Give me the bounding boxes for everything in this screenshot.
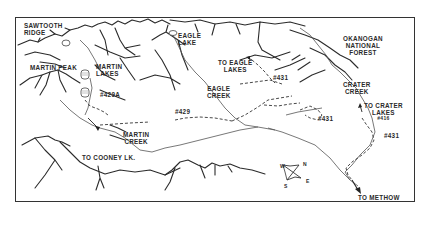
label-eagle-lake: EAGLE LAKE (178, 32, 201, 46)
label-martin-lakes-line1: MARTIN (96, 63, 122, 70)
compass-n: N (303, 161, 307, 168)
label-okanogan-line3: FOREST (343, 49, 383, 56)
creek-martin (60, 100, 275, 152)
label-okanogan-line1: OKANOGAN (343, 35, 383, 42)
label-trail-429a: #429A (100, 91, 120, 98)
label-to-eagle-lakes-line2: LAKES (218, 66, 252, 73)
label-martin-peak: MARTIN PEAK (30, 64, 77, 71)
label-to-methow: TO METHOW (358, 194, 400, 201)
trail-429-path (100, 117, 232, 125)
label-martin-creek: MARTIN CREEK (123, 131, 149, 145)
label-sawtooth-line2: RIDGE (24, 29, 63, 36)
label-trail-431-right: #431 (384, 132, 399, 139)
lake-martin-lower (81, 88, 89, 97)
label-martin-creek-line2: CREEK (123, 138, 149, 145)
label-to-eagle-lakes: TO EAGLE LAKES (218, 59, 252, 73)
arrows (88, 56, 362, 194)
label-sawtooth-line1: SAWTOOTH (24, 22, 63, 29)
label-crater-creek-line1: CRATER (343, 81, 371, 88)
lake-martin-upper (81, 70, 89, 79)
label-okanogan-line2: NATIONAL (343, 42, 383, 49)
label-crater-creek-line2: CREEK (343, 88, 371, 95)
label-eagle-creek-line2: CREEK (207, 92, 231, 99)
lake-eagle (169, 31, 177, 36)
creek-main (268, 128, 350, 180)
label-to-cooney-lake: TO COONEY LK. (82, 154, 135, 161)
compass-s: S (284, 183, 288, 190)
label-martin-creek-line1: MARTIN (123, 131, 149, 138)
label-to-crater-lakes-line1: TO CRATER (364, 102, 403, 109)
compass-rose (283, 165, 301, 180)
label-eagle-creek: EAGLE CREEK (207, 85, 231, 99)
label-trail-431-top: #431 (273, 74, 288, 81)
label-martin-lakes-line2: LAKES (96, 70, 122, 77)
compass-w: W (280, 163, 285, 170)
label-eagle-lake-line2: LAKE (178, 39, 201, 46)
compass-e: E (306, 178, 310, 185)
trail-431-right (346, 118, 374, 180)
label-okanogan-national-forest: OKANOGAN NATIONAL FOREST (343, 35, 383, 56)
label-crater-creek: CRATER CREEK (343, 81, 371, 95)
label-to-crater-lakes: TO CRATER LAKES #416 (364, 102, 403, 121)
label-trail-416: #416 (364, 116, 403, 121)
label-eagle-lake-line1: EAGLE (178, 32, 201, 39)
label-trail-431-mid: #431 (318, 115, 333, 122)
label-to-eagle-lakes-line1: TO EAGLE (218, 59, 252, 66)
label-eagle-creek-line1: EAGLE (207, 85, 231, 92)
label-sawtooth-ridge: SAWTOOTH RIDGE (24, 22, 63, 36)
label-trail-429: #429 (175, 108, 190, 115)
label-martin-lakes: MARTIN LAKES (96, 63, 122, 77)
